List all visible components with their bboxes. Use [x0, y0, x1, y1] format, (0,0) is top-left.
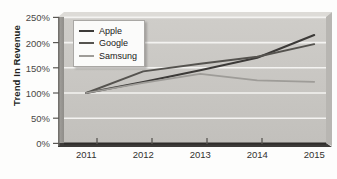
legend-item-google[interactable]: Google: [79, 37, 137, 49]
legend-swatch-apple-icon: [79, 30, 94, 32]
x-axis-tick-label: 2014: [247, 149, 268, 160]
x-axis-tick-label: 2015: [304, 149, 325, 160]
chart-legend[interactable]: AppleGoogleSamsung: [73, 20, 145, 67]
legend-label: Google: [99, 37, 128, 49]
plot-right-bevel: [326, 12, 332, 146]
legend-swatch-samsung-icon: [79, 55, 94, 57]
x-axis-tick-label: 2011: [76, 149, 96, 160]
plot-top-bevel: [58, 12, 332, 17]
plot-area: [0, 0, 337, 179]
revenue-trend-chart: Trend In Revenue 0%50%100%150%200%250%: [0, 0, 337, 179]
x-axis-tick-label: 2012: [133, 149, 154, 160]
x-axis-tick-label: 2013: [190, 149, 211, 160]
legend-item-apple[interactable]: Apple: [79, 25, 137, 37]
legend-label: Apple: [99, 25, 122, 37]
legend-item-samsung[interactable]: Samsung: [79, 50, 137, 62]
legend-swatch-google-icon: [79, 42, 94, 44]
legend-label: Samsung: [99, 50, 137, 62]
